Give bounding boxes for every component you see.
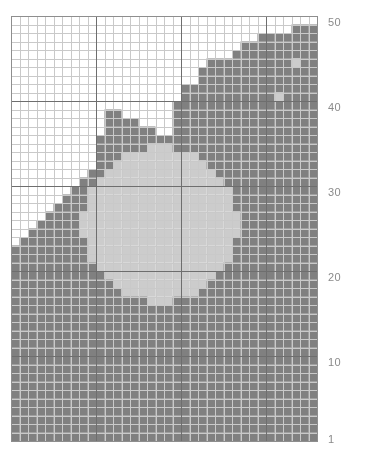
pattern-grid-canvas[interactable]: [0, 0, 365, 453]
pattern-chart: 50403020101: [0, 0, 365, 453]
